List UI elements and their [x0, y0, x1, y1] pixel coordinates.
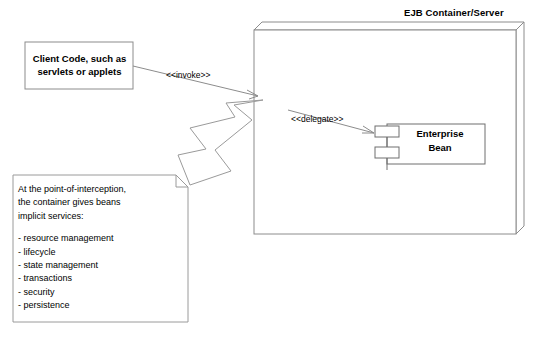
client-code-label: Client Code, such as servlets or applets [27, 52, 132, 78]
page-title: EJB Container/Server [404, 7, 529, 18]
note-service-item: - security [18, 286, 178, 299]
client-code-line-2: servlets or applets [38, 66, 122, 77]
enterprise-bean-label: Enterprise Bean [400, 127, 480, 155]
delegate-stereotype-label: <<delegate>> [291, 114, 343, 125]
note-intro-line: At the point-of-interception, [18, 183, 178, 196]
component-port-lower [375, 147, 399, 158]
note-text-block: At the point-of-interception, the contai… [18, 183, 178, 313]
client-code-line-1: Client Code, such as [33, 53, 126, 64]
note-service-item: - resource management [18, 232, 178, 245]
note-intro-line: implicit services: [18, 210, 178, 223]
note-service-item: - transactions [18, 272, 178, 285]
note-service-item: - state management [18, 259, 178, 272]
note-spacer [18, 223, 178, 232]
note-service-item: - lifecycle [18, 246, 178, 259]
enterprise-bean-line-2: Bean [428, 142, 451, 153]
interception-block-arrow [178, 100, 263, 185]
container-right-face [516, 22, 524, 234]
enterprise-bean-line-1: Enterprise [417, 128, 464, 139]
container-top-face [254, 22, 524, 30]
ejb-architecture-diagram: EJB Container/Server Client Code, such a… [0, 0, 537, 341]
note-intro-line: the container gives beans [18, 196, 178, 209]
note-service-item: - persistence [18, 299, 178, 312]
component-port-upper [375, 126, 399, 137]
invoke-stereotype-label: <<invoke>> [166, 70, 210, 81]
